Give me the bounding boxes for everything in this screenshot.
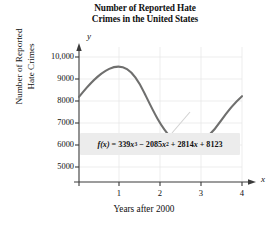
equation-function-var: (x): [100, 140, 109, 149]
x-tick-label: 4: [234, 188, 250, 198]
y-axis-label-line-1: Number of Reported: [14, 0, 26, 137]
x-tick-label: 3: [193, 188, 209, 198]
equation-operator-3: +: [198, 140, 207, 149]
x-axis-label: Years after 2000: [84, 204, 204, 214]
y-tick-label: 9000: [38, 75, 74, 83]
equation-term3-coef: 2814: [177, 140, 193, 149]
equation-constant: 8123: [206, 140, 222, 149]
equation-operator-1: −: [137, 140, 146, 149]
chart-title-line-2: Crimes in the United States: [60, 14, 230, 25]
y-tick-labels: 10,000 9000 8000 7000 6000 5000: [38, 0, 74, 227]
y-tick-label: 7000: [38, 119, 74, 127]
x-axis-symbol: x: [261, 174, 265, 184]
y-axis-label: Number of Reported Hate Crimes: [14, 0, 37, 137]
equation-callout: f(x)=339x3−2085x2+2814x+8123: [80, 133, 240, 155]
x-tick-label: 1: [111, 188, 127, 198]
chart-title-line-1: Number of Reported Hate: [60, 3, 230, 14]
y-tick-label: 5000: [38, 163, 74, 171]
equation-equals: =: [110, 140, 119, 149]
y-axis-label-line-2: Hate Crimes: [25, 0, 37, 137]
y-axis-symbol: y: [87, 31, 91, 41]
y-tick-label: 6000: [38, 141, 74, 149]
equation-term1-coef: 339: [118, 140, 130, 149]
equation-term2-coef: 2085: [146, 140, 162, 149]
y-tick-label: 10,000: [38, 53, 74, 61]
y-tick-label: 8000: [38, 97, 74, 105]
equation-operator-2: +: [169, 140, 178, 149]
chart-title: Number of Reported Hate Crimes in the Un…: [60, 3, 230, 25]
x-tick-label: 2: [152, 188, 168, 198]
